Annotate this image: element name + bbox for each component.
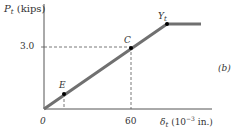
panel-label: (b) — [218, 64, 231, 73]
load-displacement-chart: Pt (kips) 3.0 0 60 δt (10−3 in.) E C Yt … — [0, 0, 240, 131]
y-tick-label-3: 3.0 — [20, 42, 34, 51]
chart-plot-area — [0, 0, 240, 131]
y-axis-label: Pt (kips) — [4, 4, 45, 16]
load-displacement-curve — [44, 24, 201, 109]
point-c-label: C — [124, 36, 131, 45]
x-tick-label-60: 60 — [125, 117, 136, 126]
x-tick-label-0: 0 — [40, 117, 46, 126]
point-e — [62, 92, 66, 96]
point-c — [129, 46, 133, 50]
x-axis-label: δt (10−3 in.) — [160, 116, 213, 129]
point-yt-label: Yt — [158, 12, 167, 23]
point-e-label: E — [59, 81, 66, 90]
